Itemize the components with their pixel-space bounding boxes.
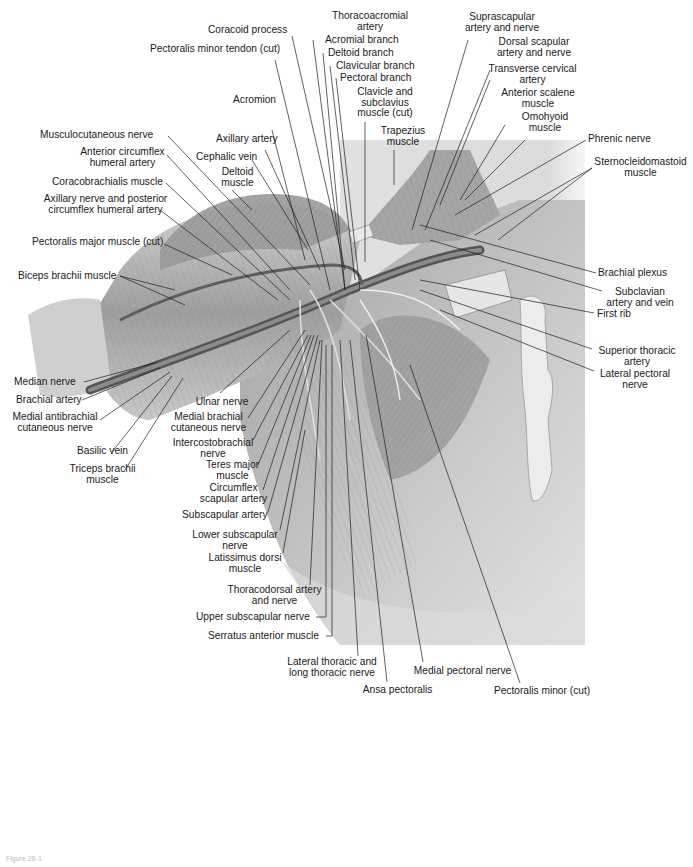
label-sternocleidomastoid-muscle: Sternocleidomastoid muscle	[588, 157, 693, 178]
label-lateral-pectoral-nerve: Lateral pectoral nerve	[590, 369, 680, 390]
label-thoracoacromial-artery: Thoracoacromial artery	[330, 11, 410, 32]
label-brachial-artery: Brachial artery	[16, 395, 86, 406]
label-clavicle-subclavius-cut: Clavicle and subclavius muscle (cut)	[345, 87, 425, 119]
label-pectoral-branch: Pectoral branch	[340, 73, 440, 84]
label-brachial-plexus: Brachial plexus	[598, 268, 688, 279]
label-thoracodorsal-artery-nerve: Thoracodorsal artery and nerve	[222, 585, 327, 606]
label-medial-pectoral-nerve: Medial pectoral nerve	[405, 666, 520, 677]
label-musculocutaneous-nerve: Musculocutaneous nerve	[40, 130, 170, 141]
label-trapezius-muscle: Trapezius muscle	[373, 126, 433, 147]
label-deltoid-branch: Deltoid branch	[328, 48, 428, 59]
label-subclavian-artery-vein: Subclavian artery and vein	[595, 287, 685, 308]
label-axillary-nerve-posterior-circumflex: Axillary nerve and posterior circumflex …	[38, 194, 173, 215]
label-phrenic-nerve: Phrenic nerve	[588, 134, 678, 145]
label-biceps-brachii-muscle: Biceps brachii muscle	[18, 271, 128, 282]
label-medial-antibrachial-cutaneous-nerve: Medial antibrachial cutaneous nerve	[10, 412, 100, 433]
label-omohyoid-muscle: Omohyoid muscle	[510, 112, 580, 133]
label-acromial-branch: Acromial branch	[325, 35, 425, 46]
label-ulnar-nerve: Ulnar nerve	[187, 397, 257, 408]
label-basilic-vein: Basilic vein	[70, 446, 135, 457]
label-lateral-thoracic-long-thoracic-nerve: Lateral thoracic and long thoracic nerve	[282, 657, 382, 678]
label-axillary-artery: Axillary artery	[216, 134, 296, 145]
label-triceps-brachii-muscle: Triceps brachii muscle	[60, 464, 145, 485]
label-teres-major-muscle: Teres major muscle	[200, 460, 265, 481]
label-superior-thoracic-artery: Superior thoracic artery	[588, 346, 686, 367]
label-intercostobrachial-nerve: Intercostobrachial nerve	[168, 438, 258, 459]
label-median-nerve: Median nerve	[14, 377, 84, 388]
label-serratus-anterior-muscle: Serratus anterior muscle	[208, 631, 328, 642]
label-transverse-cervical-artery: Transverse cervical artery	[480, 64, 585, 85]
figure-caption: Figure 28-1	[6, 855, 42, 862]
label-anterior-scalene-muscle: Anterior scalene muscle	[490, 88, 586, 109]
label-clavicular-branch: Clavicular branch	[336, 61, 436, 72]
label-acromion: Acromion	[233, 95, 303, 106]
label-suprascapular-artery-nerve: Suprascapular artery and nerve	[458, 12, 546, 33]
label-upper-subscapular-nerve: Upper subscapular nerve	[196, 612, 316, 623]
label-lower-subscapular-nerve: Lower subscapular nerve	[190, 530, 280, 551]
label-pectoralis-minor-tendon-cut: Pectoralis minor tendon (cut)	[150, 44, 290, 55]
label-pectoralis-minor-cut: Pectoralis minor (cut)	[487, 686, 597, 697]
label-subscapular-artery: Subscapular artery	[182, 510, 277, 521]
label-circumflex-scapular-artery: Circumflex scapular artery	[196, 483, 271, 504]
label-coracoid-process: Coracoid process	[208, 25, 318, 36]
label-medial-brachial-cutaneous-nerve: Medial brachial cutaneous nerve	[166, 412, 251, 433]
label-anterior-circumflex-humeral-artery: Anterior circumflex humeral artery	[70, 147, 175, 168]
label-deltoid-muscle: Deltoid muscle	[210, 167, 265, 188]
label-first-rib: First rib	[597, 309, 647, 320]
label-dorsal-scapular-artery-nerve: Dorsal scapular artery and nerve	[490, 37, 578, 58]
label-cephalic-vein: Cephalic vein	[196, 152, 276, 163]
label-ansa-pectoralis: Ansa pectoralis	[355, 685, 440, 696]
label-latissimus-dorsi-muscle: Latissimus dorsi muscle	[205, 553, 285, 574]
anatomy-figure: Thoracoacromial arteryCoracoid processPe…	[0, 0, 693, 867]
label-coracobrachialis-muscle: Coracobrachialis muscle	[52, 177, 172, 188]
label-pectoralis-major-cut: Pectoralis major muscle (cut)	[32, 237, 172, 248]
